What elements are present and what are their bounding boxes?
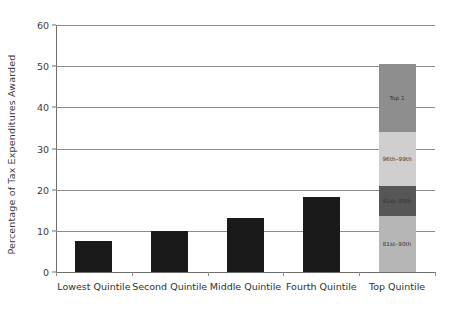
- y-tick-label: 0: [43, 267, 49, 278]
- gridline: [56, 272, 435, 273]
- bar-segment-label: 81st–90th: [383, 241, 412, 247]
- x-tick-mark: [435, 272, 436, 276]
- y-tick-label: 10: [37, 225, 49, 236]
- bar-segment-label: Top 1: [389, 95, 404, 101]
- bar-second-quintile[interactable]: [151, 231, 188, 272]
- gridline: [56, 25, 435, 26]
- bar-segment: [151, 231, 188, 272]
- y-tick-label: 60: [37, 20, 49, 31]
- y-tick-mark: [52, 230, 56, 231]
- bar-segment: 81st–90th: [379, 216, 416, 272]
- x-tick-mark: [56, 272, 57, 276]
- y-tick-label: 40: [37, 102, 49, 113]
- y-tick-mark: [52, 66, 56, 67]
- bar-segment-label: 91st–95th: [383, 198, 412, 204]
- x-tick-mark: [359, 272, 360, 276]
- x-tick-label: Middle Quintile: [210, 281, 281, 292]
- bar-segment: 96th–99th: [379, 132, 416, 186]
- y-tick-label: 20: [37, 184, 49, 195]
- bar-top-quintile[interactable]: Top 196th–99th91st–95th81st–90th: [379, 64, 416, 272]
- bar-lowest-quintile[interactable]: [75, 241, 112, 272]
- y-tick-mark: [52, 25, 56, 26]
- x-tick-label: Top Quintile: [369, 281, 425, 292]
- y-tick-label: 50: [37, 61, 49, 72]
- y-tick-mark: [52, 148, 56, 149]
- bar-segment: [75, 241, 112, 272]
- bar-segment: Top 1: [379, 64, 416, 132]
- y-axis-title: Percentage of Tax Expenditures Awarded: [0, 0, 22, 309]
- y-tick-mark: [52, 107, 56, 108]
- tax-expenditures-bar-chart: Percentage of Tax Expenditures Awarded 0…: [0, 0, 469, 309]
- x-tick-label: Second Quintile: [132, 281, 207, 292]
- y-tick-label: 30: [37, 143, 49, 154]
- x-tick-label: Lowest Quintile: [57, 281, 130, 292]
- bar-segment-label: 96th–99th: [382, 156, 411, 162]
- bar-segment: [227, 218, 264, 272]
- x-tick-label: Fourth Quintile: [286, 281, 357, 292]
- bar-fourth-quintile[interactable]: [303, 197, 340, 272]
- bar-middle-quintile[interactable]: [227, 218, 264, 272]
- x-tick-mark: [208, 272, 209, 276]
- bar-segment: [303, 197, 340, 272]
- plot-area: 0102030405060 Top 196th–99th91st–95th81s…: [56, 25, 435, 272]
- bar-segment: 91st–95th: [379, 186, 416, 217]
- y-tick-mark: [52, 189, 56, 190]
- x-tick-mark: [132, 272, 133, 276]
- x-tick-mark: [283, 272, 284, 276]
